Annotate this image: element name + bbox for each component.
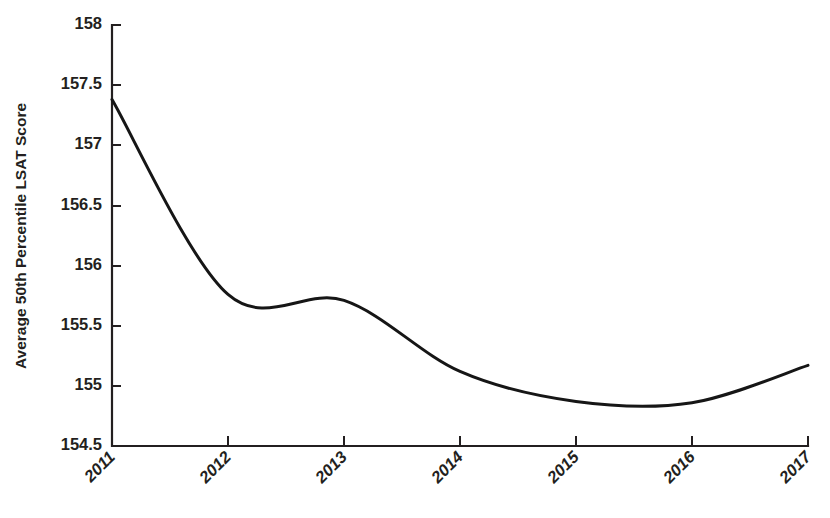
y-tick-label: 156.5 — [61, 195, 102, 213]
y-tick-label: 157.5 — [61, 74, 102, 92]
x-tick-label: 2015 — [543, 447, 583, 487]
y-tick-marks — [112, 25, 121, 446]
x-tick-label: 2016 — [659, 447, 699, 487]
y-tick-label: 154.5 — [61, 435, 102, 453]
y-tick-label: 157 — [74, 134, 102, 152]
x-tick-label: 2014 — [427, 447, 466, 486]
x-tick-marks — [112, 436, 808, 446]
x-tick-label: 2013 — [311, 447, 350, 486]
chart-container: Average 50th Percentile LSAT Score 158 1… — [0, 0, 830, 518]
data-series-line — [112, 100, 808, 407]
y-axis-title: Average 50th Percentile LSAT Score — [12, 103, 29, 370]
x-tick-label: 2017 — [775, 447, 815, 487]
y-tick-label-group: 158 157.5 157 156.5 156 155.5 155 154.5 — [61, 14, 102, 453]
y-tick-label: 158 — [74, 14, 102, 32]
x-tick-label-group: 2011 2012 2013 2014 2015 2016 2017 — [80, 447, 815, 487]
y-tick-label: 156 — [74, 255, 102, 273]
y-tick-label: 155 — [74, 375, 102, 393]
x-tick-label: 2012 — [195, 447, 234, 486]
y-tick-label: 155.5 — [61, 315, 102, 333]
axis-spines — [112, 25, 808, 446]
line-chart: Average 50th Percentile LSAT Score 158 1… — [0, 0, 830, 518]
